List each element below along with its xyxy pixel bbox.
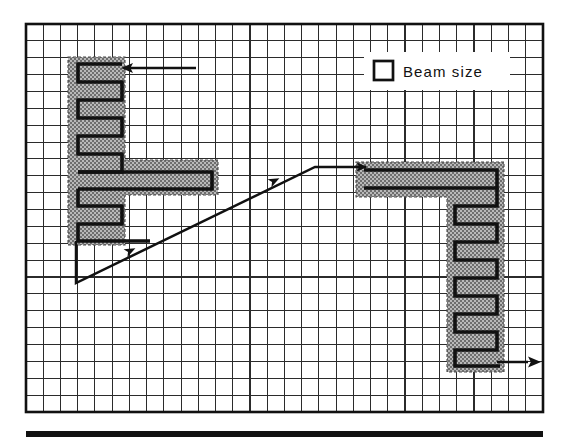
legend-label-beam-size: Beam size (403, 63, 483, 80)
scan-pattern-diagram: Beam size (0, 0, 569, 441)
baseline-bar (26, 431, 543, 437)
figure-canvas: Beam size (0, 0, 569, 441)
legend-swatch-beam-size (374, 61, 393, 80)
left-serpentine-polyline (78, 64, 122, 172)
legend: Beam size (364, 52, 510, 90)
